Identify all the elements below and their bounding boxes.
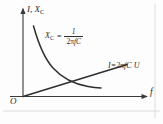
origin-label: O <box>10 97 17 106</box>
x-axis-arrow-icon <box>142 94 149 99</box>
fraction-denominator: 2πfC <box>64 37 83 45</box>
denominator-variables: fC <box>74 37 81 46</box>
y-axis-label-subscript: C <box>40 8 44 15</box>
reactance-fraction: 1 2πfC <box>64 28 83 45</box>
reactance-formula-annotation: XC = 1 2πfC <box>45 28 83 45</box>
y-axis-label-text: I, X <box>27 4 40 14</box>
x-axis-label: f <box>150 88 153 98</box>
reactance-symbol: XC <box>45 32 54 41</box>
y-axis-label: I, XC <box>27 5 44 15</box>
reactance-symbol-subscript: C <box>50 35 54 41</box>
reactance-equals-sign: = <box>56 33 63 41</box>
fraction-numerator: 1 <box>69 28 79 36</box>
y-axis-arrow-icon <box>20 8 25 15</box>
figure-container: I, XC f O XC = 1 2πfC I=2πfC U <box>0 0 163 124</box>
current-equation-annotation: I=2πfC U <box>108 62 139 70</box>
